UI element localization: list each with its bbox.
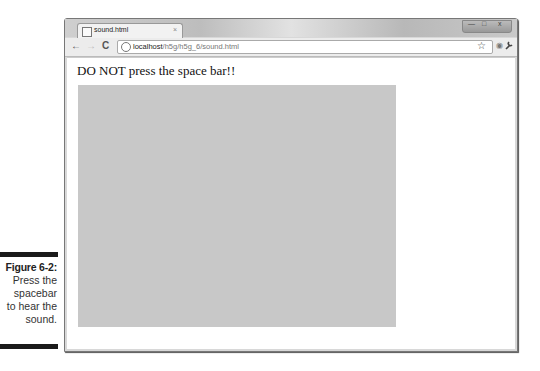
forward-button[interactable]: →: [86, 40, 96, 51]
browser-tab[interactable]: sound.html ×: [77, 23, 183, 39]
tab-title: sound.html: [94, 26, 128, 33]
page-favicon-icon: [82, 27, 92, 37]
caption-top-rule: [0, 252, 58, 257]
page-viewport: DO NOT press the space bar!!: [67, 57, 515, 349]
wrench-icon: [505, 40, 514, 50]
window-controls: — □ x: [462, 20, 512, 33]
figure-label: Figure 6-2:: [0, 261, 57, 274]
game-canvas[interactable]: [78, 85, 396, 327]
caption-line: sound.: [0, 313, 57, 326]
url-path: /h5g/h5g_6/sound.html: [163, 42, 239, 51]
reload-button[interactable]: C: [102, 40, 109, 51]
page-heading: DO NOT press the space bar!!: [77, 63, 235, 79]
bookmark-star-icon[interactable]: ☆: [477, 40, 486, 51]
caption-bottom-rule: [0, 344, 58, 349]
minimize-button[interactable]: —: [468, 20, 475, 27]
figure-caption: Figure 6-2: Press the spacebar to hear t…: [0, 261, 57, 326]
title-bar: sound.html × — □ x: [65, 19, 517, 37]
maximize-button[interactable]: □: [482, 20, 486, 27]
address-url: localhost/h5g/h5g_6/sound.html: [133, 42, 239, 51]
extension-eye-icon[interactable]: ◉: [496, 41, 503, 50]
close-window-button[interactable]: x: [498, 20, 502, 27]
address-bar[interactable]: localhost/h5g/h5g_6/sound.html ☆: [117, 40, 493, 54]
browser-window: sound.html × — □ x ← → C localhost/h5g/h…: [64, 18, 518, 352]
browser-toolbar: ← → C localhost/h5g/h5g_6/sound.html ☆ ◉: [65, 38, 517, 57]
caption-line: Press the: [0, 274, 57, 287]
wrench-menu-icon[interactable]: [505, 40, 514, 52]
page-info-icon[interactable]: [121, 42, 131, 52]
caption-line: spacebar: [0, 287, 57, 300]
url-host: localhost: [133, 42, 163, 51]
caption-line: to hear the: [0, 300, 57, 313]
tab-close-icon[interactable]: ×: [173, 26, 177, 33]
back-button[interactable]: ←: [71, 40, 81, 51]
